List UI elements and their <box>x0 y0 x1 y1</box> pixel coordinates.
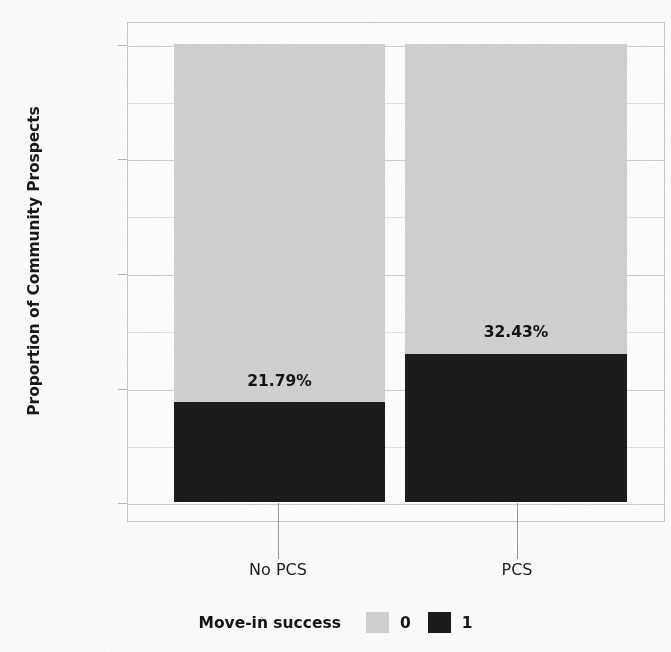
y-tick-mark-0-75 <box>118 159 127 160</box>
legend-title: Move-in success <box>198 614 340 632</box>
legend-swatch-1-icon <box>428 612 451 633</box>
bar-pcs-data-label: 32.43% <box>405 323 627 341</box>
y-tick-mark-1-00 <box>118 45 127 46</box>
plot-area: 21.79% 32.43% <box>127 22 665 522</box>
gridline-0-00 <box>128 504 664 505</box>
y-tick-mark-0-50 <box>118 274 127 275</box>
y-axis-title: Proportion of Community Prospects <box>25 21 43 501</box>
bar-no-pcs-segment-0[interactable] <box>174 44 385 402</box>
bar-no-pcs-data-label: 21.79% <box>174 372 385 390</box>
x-tick-mark-pcs <box>517 503 518 559</box>
y-tick-mark-0-00 <box>118 503 127 504</box>
legend-swatch-0-icon <box>366 612 389 633</box>
bar-no-pcs[interactable]: 21.79% <box>174 44 385 502</box>
legend-label-1: 1 <box>462 614 473 632</box>
bar-no-pcs-segment-1[interactable] <box>174 402 385 502</box>
legend: Move-in success 0 1 <box>0 612 671 633</box>
y-tick-mark-0-25 <box>118 389 127 390</box>
legend-entry-0[interactable]: 0 <box>366 612 411 633</box>
x-tick-mark-no-pcs <box>278 503 279 559</box>
chart-figure: Proportion of Community Prospects 1.00 0… <box>0 0 671 652</box>
legend-entry-1[interactable]: 1 <box>428 612 473 633</box>
x-tick-label-pcs: PCS <box>427 560 607 579</box>
legend-label-0: 0 <box>400 614 411 632</box>
bar-pcs[interactable]: 32.43% <box>405 44 627 502</box>
x-tick-label-no-pcs: No PCS <box>188 560 368 579</box>
bar-pcs-segment-0[interactable] <box>405 44 627 354</box>
bar-pcs-segment-1[interactable] <box>405 354 627 503</box>
